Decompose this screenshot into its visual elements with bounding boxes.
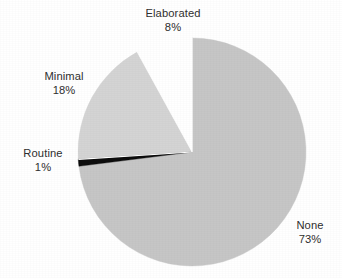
pie-label-routine-name: Routine — [5, 146, 81, 160]
pie-label-routine-value: 1% — [5, 160, 81, 174]
pie-label-minimal-value: 18% — [25, 83, 103, 97]
pie-label-minimal: Minimal 18% — [25, 69, 103, 98]
pie-label-none: None 73% — [282, 218, 338, 247]
pie-label-none-name: None — [282, 218, 338, 232]
pie-label-elaborated-name: Elaborated — [129, 6, 217, 20]
pie-label-elaborated: Elaborated 8% — [129, 6, 217, 35]
pie-chart: Elaborated 8% Minimal 18% Routine 1% Non… — [0, 0, 342, 278]
pie-label-minimal-name: Minimal — [25, 69, 103, 83]
pie-label-none-value: 73% — [282, 232, 338, 246]
pie-slices — [78, 38, 306, 266]
pie-label-elaborated-value: 8% — [129, 20, 217, 34]
pie-label-routine: Routine 1% — [5, 146, 81, 175]
